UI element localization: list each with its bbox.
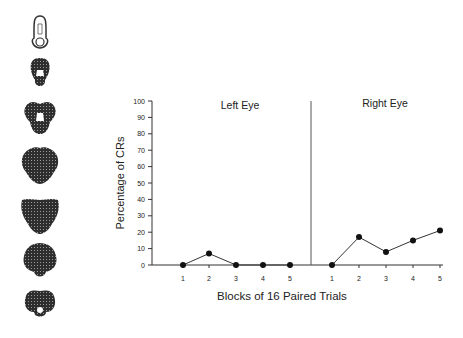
x-tick-label: 5: [438, 275, 442, 282]
y-axis: 0102030405060708090100: [133, 98, 152, 269]
x-tick-label: 2: [357, 275, 361, 282]
x-tick-label: 3: [384, 275, 388, 282]
panel-label-left-eye: Left Eye: [221, 99, 260, 111]
data-point: [287, 262, 293, 268]
x-tick-label: 2: [207, 275, 211, 282]
data-point: [206, 251, 212, 257]
y-tick-label: 100: [133, 98, 145, 105]
y-tick-label: 90: [137, 114, 145, 121]
data-point: [180, 262, 186, 268]
data-point: [233, 262, 239, 268]
x-tick-label: 1: [181, 275, 185, 282]
x-tick-label: 1: [330, 275, 334, 282]
data-point: [329, 262, 335, 268]
y-tick-label: 30: [137, 212, 145, 219]
x-axis-label: Blocks of 16 Paired Trials: [217, 290, 347, 302]
data-point: [260, 262, 266, 268]
y-tick-label: 50: [137, 180, 145, 187]
series-line-1: [332, 231, 440, 265]
x-axis: 1234512345: [152, 265, 443, 282]
x-tick-label: 3: [234, 275, 238, 282]
y-tick-label: 10: [137, 245, 145, 252]
y-tick-label: 0: [141, 262, 145, 269]
x-tick-label: 4: [411, 275, 415, 282]
x-tick-label: 5: [288, 275, 292, 282]
x-tick-label: 4: [261, 275, 265, 282]
data-point: [437, 228, 443, 234]
data-point: [383, 249, 389, 255]
y-tick-label: 20: [137, 229, 145, 236]
y-tick-label: 60: [137, 163, 145, 170]
y-tick-label: 40: [137, 196, 145, 203]
y-axis-label: Percentage of CRs: [114, 136, 126, 229]
data-point: [356, 234, 362, 240]
data-point: [410, 237, 416, 243]
y-tick-label: 80: [137, 130, 145, 137]
cr-percentage-chart: 0102030405060708090100 1234512345 Left E…: [0, 0, 463, 338]
y-tick-label: 70: [137, 147, 145, 154]
panel-label-right-eye: Right Eye: [362, 97, 408, 109]
